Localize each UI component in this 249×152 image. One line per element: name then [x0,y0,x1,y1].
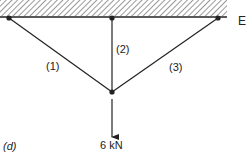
load-joint [109,89,114,94]
member-3 [112,18,218,92]
truss-diagram [0,0,249,152]
pin-joint-middle [109,15,114,20]
member-label-2: (2) [116,44,129,55]
member-1 [9,18,112,92]
pin-joint-right [215,15,220,20]
support-label: E [238,15,246,27]
ceiling-support [0,0,227,17]
pin-joint-left [6,15,11,20]
figure-label: (d) [3,141,16,152]
member-label-1: (1) [46,61,59,72]
load-label: 6 kN [100,140,123,151]
member-label-3: (3) [169,62,182,73]
